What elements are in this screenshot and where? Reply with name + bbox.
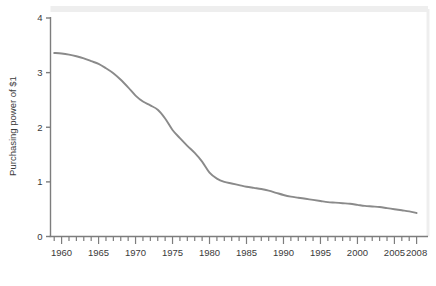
chart-container: 01234 1960196519701975198019851990199520… — [0, 0, 436, 286]
y-axis-title: Purchasing power of $1 — [7, 76, 18, 176]
y-axis-tick-label: 1 — [37, 176, 42, 187]
y-axis-tick-label: 2 — [37, 122, 42, 133]
x-axis-tick-label: 1960 — [51, 247, 72, 258]
y-axis-tick-label: 4 — [37, 12, 42, 23]
x-axis-tick-label: 1975 — [162, 247, 183, 258]
x-axis-tick-label: 2008 — [406, 247, 427, 258]
y-axis-tick-label: 3 — [37, 67, 42, 78]
x-axis-tick-label: 1990 — [273, 247, 294, 258]
x-axis-tick-label: 1980 — [199, 247, 220, 258]
chart-background — [0, 0, 436, 286]
x-axis-tick-label: 1995 — [310, 247, 331, 258]
x-axis-tick-label: 2000 — [347, 247, 368, 258]
x-axis-tick-label: 1985 — [236, 247, 257, 258]
x-axis-tick-label: 1965 — [88, 247, 109, 258]
x-axis-tick-label: 1970 — [125, 247, 146, 258]
purchasing-power-line-chart: 01234 1960196519701975198019851990199520… — [0, 0, 436, 286]
x-axis-tick-label: 2005 — [384, 247, 405, 258]
y-axis-tick-label: 0 — [37, 231, 42, 242]
